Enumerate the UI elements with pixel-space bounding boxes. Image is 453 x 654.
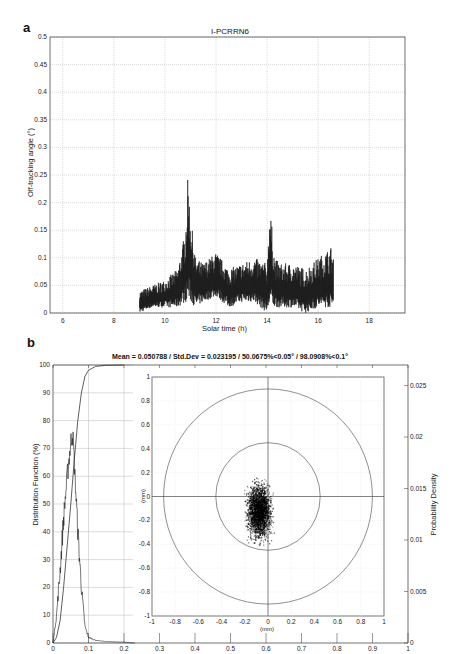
chart-canvas [0, 0, 453, 654]
